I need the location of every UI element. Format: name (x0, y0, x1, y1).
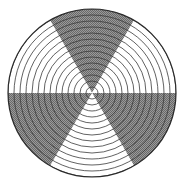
sector-layer (8, 9, 176, 177)
figure-container (0, 0, 184, 191)
sector-circle-chart (0, 0, 184, 191)
